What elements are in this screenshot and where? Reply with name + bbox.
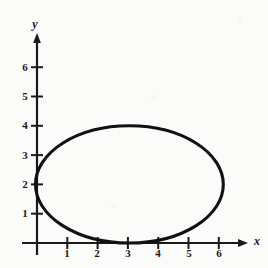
plot-canvas — [0, 0, 268, 268]
x-tick-label-4: 4 — [151, 248, 165, 259]
x-axis-arrowhead — [238, 239, 248, 247]
graph-figure: 1 2 3 4 5 6 1 2 3 4 5 6 y x — [0, 0, 268, 268]
y-axis-label: y — [28, 18, 42, 30]
x-tick-label-1: 1 — [60, 248, 74, 259]
x-tick-label-5: 5 — [182, 248, 196, 259]
x-tick-label-3: 3 — [121, 248, 135, 259]
y-tick-label-4: 4 — [18, 120, 32, 131]
y-tick-label-6: 6 — [18, 62, 32, 73]
y-tick-label-5: 5 — [18, 91, 32, 102]
y-axis-arrowhead — [33, 33, 41, 43]
y-tick-label-2: 2 — [18, 179, 32, 190]
y-tick-label-3: 3 — [18, 150, 32, 161]
x-tick-label-2: 2 — [90, 248, 104, 259]
y-tick-label-1: 1 — [18, 208, 32, 219]
x-axis-label: x — [250, 235, 264, 247]
ellipse-curve — [35, 126, 223, 243]
x-tick-label-6: 6 — [212, 248, 226, 259]
